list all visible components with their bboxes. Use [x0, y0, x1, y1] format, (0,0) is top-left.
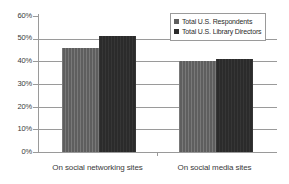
legend-label-respondents: Total U.S. Respondents [182, 18, 252, 25]
y-axis-label-30: 30% [2, 80, 32, 88]
y-axis-label-0: 0% [2, 148, 32, 156]
legend-swatch-icon-library-directors [174, 29, 179, 34]
y-axis-labels: 60% 50% 40% 30% 20% 10% 0% [0, 0, 32, 184]
y-axis-label-20: 20% [2, 103, 32, 111]
x-axis-category-tick [157, 152, 158, 156]
y-axis-label-40: 40% [2, 57, 32, 65]
y-axis-label-50: 50% [2, 34, 32, 42]
bar-group1-respondents [62, 48, 99, 152]
y-axis-label-10: 10% [2, 125, 32, 133]
bar-group1-library-directors [99, 36, 136, 152]
x-axis-label-social-media: On social media sites [162, 163, 267, 172]
legend-entry-library-directors: Total U.S. Library Directors [174, 27, 261, 36]
bar-chart: 60% 50% 40% 30% 20% 10% 0% On social net… [0, 0, 289, 184]
x-axis-label-social-networking: On social networking sites [40, 163, 155, 172]
legend: Total U.S. Respondents Total U.S. Librar… [170, 13, 266, 41]
bar-group2-respondents [179, 61, 216, 152]
bar-group2-library-directors [216, 59, 253, 152]
y-axis-label-60: 60% [2, 12, 32, 20]
legend-swatch-icon-respondents [174, 19, 179, 24]
legend-label-library-directors: Total U.S. Library Directors [182, 28, 261, 35]
legend-entry-respondents: Total U.S. Respondents [174, 17, 261, 26]
